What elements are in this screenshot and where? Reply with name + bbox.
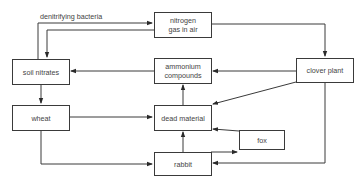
edge-soil-to-nitrogen [38, 23, 152, 59]
node-soil-nitrates: soil nitrates [12, 59, 70, 85]
node-label: ammonium [164, 62, 201, 71]
node-wheat: wheat [12, 105, 70, 131]
node-nitrogen-gas: nitrogengas in air [154, 12, 212, 38]
edge-clover-to-rabbit [213, 82, 325, 163]
edge-label-denitrifying-bacteria: denitrifying bacteria [40, 12, 102, 21]
node-label: dead material [161, 114, 205, 123]
edge-nitrogen-to-clover [211, 24, 325, 56]
node-clover-plant: clover plant [296, 58, 354, 83]
node-label: soil nitrates [23, 68, 59, 77]
edge-wheat-to-rabbit [41, 130, 152, 164]
node-label: gas in air [168, 25, 197, 34]
node-dead-material: dead material [154, 105, 212, 131]
node-label: fox [257, 136, 267, 145]
edge-clover-to-dead [213, 82, 296, 104]
node-label: wheat [31, 114, 50, 123]
node-rabbit: rabbit [154, 152, 212, 176]
node-label: rabbit [174, 160, 192, 169]
node-ammonium-compounds: ammoniumcompounds [154, 58, 212, 84]
node-label: clover plant [307, 66, 344, 75]
edge-fox-to-dead [213, 129, 239, 131]
node-fox: fox [239, 130, 285, 150]
node-label: compounds [164, 71, 201, 80]
node-label: nitrogen [168, 16, 197, 25]
edge-nitrogen-to-soil [47, 30, 154, 57]
